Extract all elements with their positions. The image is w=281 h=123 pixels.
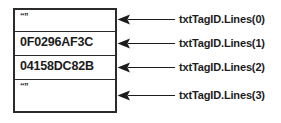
textbox-line-value: “” <box>20 11 28 21</box>
callout-label-line-3: txtTagID.Lines(3) <box>179 89 265 101</box>
textbox-line-row[interactable]: “” <box>15 10 115 32</box>
lines-mapping-diagram: “” 0F0296AF3C 04158DC82B “” txtTagID.Lin… <box>0 0 281 123</box>
left-arrow-icon <box>117 62 175 73</box>
textbox-line-value: “” <box>20 81 28 91</box>
textbox-line-value: 04158DC82B <box>20 59 94 73</box>
textbox-line-value: 0F0296AF3C <box>20 35 93 49</box>
textbox-line-row[interactable]: “” <box>15 80 115 111</box>
left-arrow-icon <box>117 90 175 101</box>
callout-label-line-2: txtTagID.Lines(2) <box>179 61 265 73</box>
left-arrow-icon <box>117 38 175 49</box>
callout-label-line-0: txtTagID.Lines(0) <box>179 13 265 25</box>
left-arrow-icon <box>117 14 175 25</box>
callout-label-line-1: txtTagID.Lines(1) <box>179 37 265 49</box>
textbox-line-row[interactable]: 0F0296AF3C <box>15 32 115 56</box>
txttagid-textbox[interactable]: “” 0F0296AF3C 04158DC82B “” <box>13 8 117 113</box>
textbox-line-row[interactable]: 04158DC82B <box>15 56 115 80</box>
